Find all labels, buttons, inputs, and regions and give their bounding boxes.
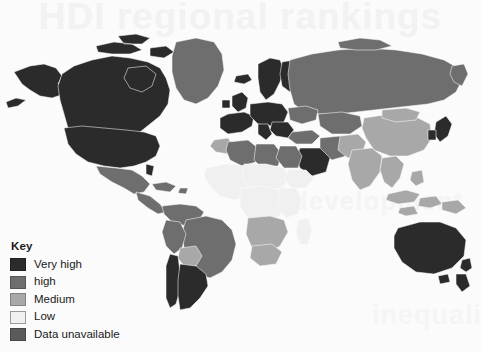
region-ukraine-belarus — [288, 106, 318, 124]
region-group-europe — [220, 58, 300, 140]
region-new-zealand — [456, 258, 472, 292]
map-page: HDI regional rankings development inequa… — [0, 0, 481, 352]
region-greenland — [172, 38, 224, 104]
region-southeast-asia-mainland — [380, 156, 404, 188]
region-philippines — [410, 170, 424, 186]
legend-label-low: Low — [34, 311, 55, 323]
region-indonesia — [386, 190, 442, 216]
region-group-south-america — [162, 204, 236, 310]
region-scandinavia — [258, 58, 284, 100]
legend-item-high[interactable]: high — [10, 275, 160, 290]
legend-item-medium[interactable]: Medium — [10, 292, 160, 307]
legend-swatch-high — [10, 276, 26, 289]
region-kazakhstan — [318, 112, 362, 134]
region-caribbean — [152, 182, 188, 194]
region-mongolia — [382, 108, 420, 122]
legend-item-very-high[interactable]: Very high — [10, 257, 160, 272]
region-korea — [428, 130, 436, 140]
legend-item-data-unavailable[interactable]: Data unavailable — [10, 327, 160, 342]
region-algeria — [226, 140, 258, 166]
region-mexico — [96, 166, 150, 194]
legend-swatch-data-unavailable — [10, 328, 26, 341]
region-east-africa — [278, 188, 302, 218]
legend-label-medium: Medium — [34, 294, 75, 306]
legend-swatch-medium — [10, 293, 26, 306]
region-united-states — [64, 126, 160, 168]
region-russia — [288, 48, 462, 114]
region-central-america — [136, 192, 166, 214]
legend: Key Very high high Medium Low Data unava… — [10, 240, 160, 345]
legend-label-high: high — [34, 276, 56, 288]
region-turkey — [288, 130, 320, 144]
region-sahel — [242, 164, 290, 190]
region-tasmania — [438, 274, 450, 284]
region-iceland — [234, 74, 252, 84]
region-egypt — [276, 146, 302, 168]
region-france-iberia — [220, 112, 254, 134]
legend-swatch-very-high — [10, 258, 26, 271]
region-italy — [258, 124, 272, 140]
legend-label-very-high: Very high — [34, 259, 82, 271]
legend-title: Key — [11, 240, 160, 252]
region-british-isles — [222, 92, 248, 112]
region-group-north-africa — [210, 138, 302, 168]
region-india — [348, 148, 382, 190]
region-siberia-north — [338, 38, 392, 50]
region-canadian-arctic-isles — [96, 34, 174, 58]
legend-item-low[interactable]: Low — [10, 310, 160, 325]
region-us-florida — [146, 164, 154, 176]
region-group-north-america — [6, 34, 174, 176]
region-madagascar — [296, 218, 312, 244]
region-group-oceania — [394, 222, 472, 292]
region-australia — [394, 222, 466, 274]
legend-label-data-unavailable: Data unavailable — [34, 329, 120, 341]
region-papua-new-guinea — [442, 200, 466, 214]
legend-swatch-low — [10, 311, 26, 324]
region-aleutians — [6, 98, 26, 108]
region-japan — [434, 116, 452, 142]
